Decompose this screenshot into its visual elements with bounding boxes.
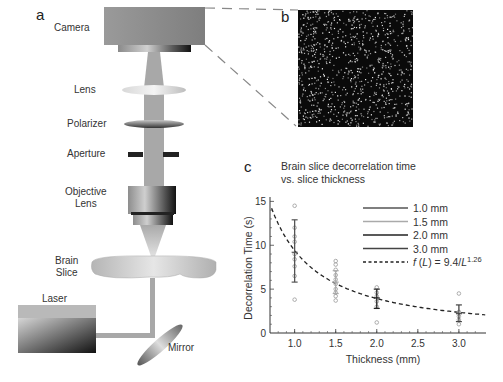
legend-label: 1.0 mm <box>413 202 448 214</box>
y-axis-label: Decorrelation Time (s) <box>242 216 254 319</box>
x-tick-label: 3.0 <box>452 338 466 349</box>
decorrelation-chart: 1.01.52.02.53.0051015Thickness (mm)Decor… <box>0 0 503 382</box>
y-tick-label: 10 <box>255 240 267 251</box>
legend-label: f (L) = 9.4/L1.26 <box>413 255 482 268</box>
legend-label: 1.5 mm <box>413 216 448 228</box>
data-point <box>293 298 297 302</box>
y-tick-label: 15 <box>255 196 267 207</box>
x-tick-label: 1.0 <box>288 338 302 349</box>
data-point <box>293 204 297 208</box>
data-point <box>375 321 379 325</box>
data-point <box>334 263 338 267</box>
data-point <box>334 299 338 303</box>
y-tick-label: 5 <box>260 284 266 295</box>
data-point <box>334 259 338 263</box>
data-point <box>457 322 461 326</box>
data-point <box>334 294 338 298</box>
x-tick-label: 1.5 <box>329 338 343 349</box>
legend-label: 3.0 mm <box>413 243 448 255</box>
x-axis-label: Thickness (mm) <box>346 353 421 365</box>
x-tick-label: 2.5 <box>411 338 425 349</box>
legend-label: 2.0 mm <box>413 229 448 241</box>
y-tick-label: 0 <box>260 328 266 339</box>
data-point <box>457 292 461 296</box>
x-tick-label: 2.0 <box>370 338 384 349</box>
